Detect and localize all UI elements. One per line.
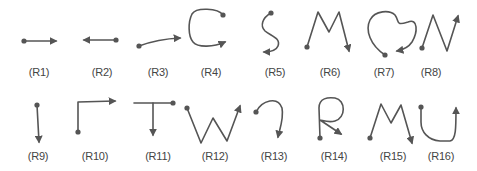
gesture-r1-icon (21, 38, 56, 43)
gesture-diagram: (R1) (R2) (R3) (R4) (R5) (R6) (R7) (R8) … (0, 0, 477, 171)
gesture-r13-icon (253, 101, 282, 137)
label-r14: (R14) (309, 150, 359, 162)
gesture-r10-icon (75, 101, 115, 135)
gesture-r8-icon (419, 15, 458, 51)
gesture-r15-icon (367, 104, 412, 143)
gesture-r3-icon (136, 38, 180, 49)
label-r8: (R8) (406, 66, 456, 78)
gesture-r12-icon (184, 105, 240, 143)
label-r6: (R6) (305, 66, 355, 78)
label-r5: (R5) (250, 66, 300, 78)
label-r15: (R15) (368, 150, 418, 162)
gesture-r11-icon (134, 100, 176, 135)
label-r11: (R11) (133, 150, 183, 162)
gesture-strokes (0, 0, 477, 171)
gesture-r6-icon (304, 12, 349, 51)
gesture-r9-icon (34, 102, 39, 142)
label-r1: (R1) (14, 66, 64, 78)
label-r12: (R12) (190, 150, 240, 162)
gesture-r2-icon (84, 37, 119, 42)
gesture-r4-icon (189, 9, 225, 46)
label-r9: (R9) (13, 150, 63, 162)
label-r16: (R16) (416, 150, 466, 162)
gesture-r14-icon (317, 98, 343, 141)
gesture-r5-icon (262, 10, 278, 52)
gesture-r7-icon (368, 12, 416, 58)
label-r10: (R10) (70, 150, 120, 162)
label-r7: (R7) (359, 66, 409, 78)
label-r13: (R13) (249, 150, 299, 162)
label-r4: (R4) (186, 66, 236, 78)
label-r2: (R2) (77, 66, 127, 78)
label-r3: (R3) (133, 66, 183, 78)
gesture-r16-icon (418, 104, 456, 141)
